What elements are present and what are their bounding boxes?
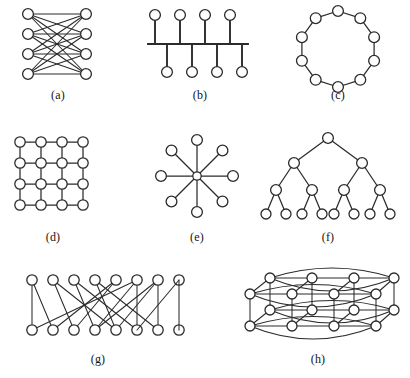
complete-bipartite-diagram (8, 4, 130, 84)
panel-e-star-topology (150, 132, 244, 220)
panel-d-mesh-grid-topology (12, 134, 94, 216)
shuffle-diagram (24, 272, 180, 338)
tree-nodes (261, 133, 395, 219)
caption-c: (c) (308, 88, 368, 103)
panel-c-ring-topology (288, 4, 388, 86)
mesh-edges-horizontal (20, 142, 84, 205)
tree-diagram (258, 130, 398, 222)
panel-a-complete-bipartite-graph (8, 4, 130, 84)
network-topology-figure: (a) (b) (0, 0, 410, 378)
caption-d: (d) (23, 230, 83, 245)
bus-nodes-bottom (162, 67, 248, 78)
panel-h-torus-topology (240, 266, 402, 346)
mesh-edges-vertical (20, 142, 83, 205)
tree-edges (266, 138, 390, 214)
panel-g-shuffle-exchange-topology (24, 272, 180, 338)
shuffle-edges (32, 280, 158, 330)
panel-b-bus-topology (143, 8, 258, 80)
caption-g: (g) (68, 352, 128, 367)
star-hub-node (193, 172, 201, 180)
caption-a: (a) (28, 88, 88, 103)
bus-nodes-top (150, 10, 236, 21)
mesh-diagram (12, 134, 94, 216)
caption-h: (h) (288, 352, 348, 367)
ring-nodes (297, 6, 380, 93)
shuffle-nodes-bottom (27, 325, 184, 335)
caption-f: (f) (298, 230, 358, 245)
shuffle-nodes-top (27, 275, 184, 285)
bipartite-edges (28, 14, 86, 74)
caption-e: (e) (167, 230, 227, 245)
ring-diagram (288, 4, 388, 86)
bus-diagram (143, 8, 258, 80)
panel-f-binary-tree-topology (258, 130, 398, 222)
mesh-nodes (15, 137, 88, 210)
star-diagram (150, 132, 244, 220)
caption-b: (b) (170, 88, 230, 103)
torus-diagram (240, 266, 402, 346)
